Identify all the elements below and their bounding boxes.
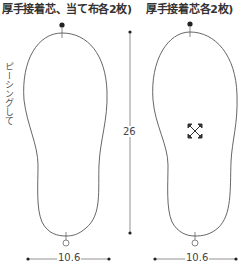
- left-sole-pattern: [24, 22, 107, 246]
- right-sole-pattern: [153, 21, 237, 246]
- hollow-circle-marker: [192, 240, 198, 246]
- height-label: 26: [122, 126, 137, 137]
- four-way-arrow-icon: [188, 124, 202, 138]
- top-dot-marker: [187, 21, 192, 26]
- top-dot-marker: [59, 22, 64, 27]
- width-label-left: 10.6: [57, 252, 81, 263]
- hollow-circle-marker: [63, 240, 69, 246]
- width-label-right: 10.6: [185, 252, 209, 263]
